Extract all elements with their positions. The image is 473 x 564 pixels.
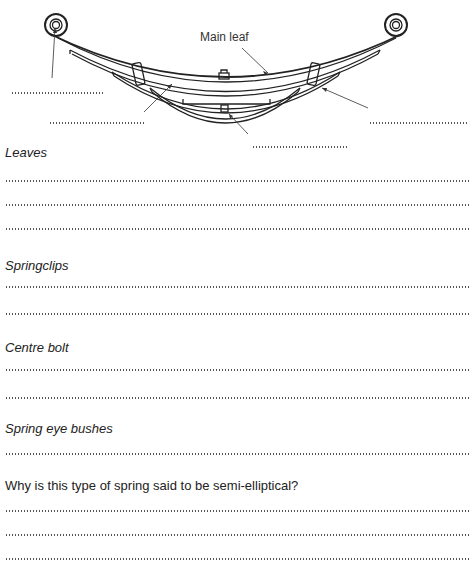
section-heading-spring-eye-bushes: Spring eye bushes [5,421,113,436]
leaf-spring-diagram: Main leaf [0,0,473,160]
springclip-blank[interactable] [369,122,467,124]
answer-line[interactable] [5,228,471,230]
answer-line[interactable] [5,558,471,560]
centre-bolt-blank[interactable] [252,146,347,148]
answer-line[interactable] [5,369,471,371]
question-semi-elliptical: Why is this type of spring said to be se… [5,478,298,493]
answer-line[interactable] [5,510,471,512]
answer-line[interactable] [5,453,471,455]
spring-eye-bush-blank[interactable] [11,92,104,94]
leaf-spring-illustration [0,0,473,160]
section-heading-centre-bolt: Centre bolt [5,340,69,355]
section-heading-leaves: Leaves [5,145,47,160]
section-heading-springclips: Springclips [5,258,69,273]
answer-line[interactable] [5,180,471,182]
answer-line[interactable] [5,534,471,536]
answer-line[interactable] [5,204,471,206]
leaves-blank[interactable] [49,122,146,124]
main-leaf-label: Main leaf [200,30,249,44]
answer-line[interactable] [5,286,471,288]
answer-line[interactable] [5,397,471,399]
answer-line[interactable] [5,313,471,315]
